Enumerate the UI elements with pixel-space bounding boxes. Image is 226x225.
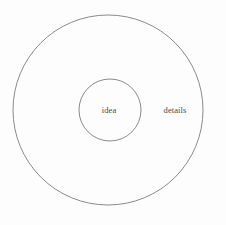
inner-circle-label: idea bbox=[102, 106, 117, 115]
outer-circle-label: details bbox=[164, 106, 187, 115]
diagram-canvas: idea details bbox=[0, 0, 226, 225]
